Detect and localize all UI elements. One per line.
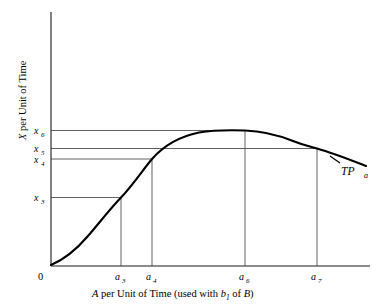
y-tick-label-x4-sub: 4 <box>41 160 45 168</box>
origin-label: 0 <box>38 271 43 282</box>
x-axis-title-text-after: ) <box>250 288 254 300</box>
y-tick-label-x3-base: x <box>33 192 39 203</box>
y-axis-title-group: X per Unit of Time <box>17 60 28 141</box>
x-tick-label-a6-base: a <box>239 271 244 282</box>
curve-label-tp-subscript: a <box>364 171 368 180</box>
y-tick-label-x3-sub: 3 <box>40 198 45 206</box>
x-tick-label-a7-sub: 7 <box>318 277 322 285</box>
y-tick-label-x6-base: x <box>33 125 39 136</box>
x-axis-title-text-before: per Unit of Time (used with <box>98 288 220 300</box>
x-tick-label-a7-base: a <box>311 271 316 282</box>
x-axis-title-text-middle: of <box>230 288 244 299</box>
x-tick-label-a6-sub: 6 <box>246 277 250 285</box>
x-tick-label-a3-sub: 3 <box>121 277 126 285</box>
y-axis-title-text: per Unit of Time <box>17 60 28 133</box>
x-tick-label-a4-sub: 4 <box>153 277 157 285</box>
chart-svg: TP a x 6 x 5 x 4 x 3 a 3 a 4 a 6 a 7 0 <box>0 0 382 304</box>
chart-background <box>0 0 382 304</box>
x-tick-label-a4-base: a <box>146 271 151 282</box>
y-tick-label-x5-base: x <box>33 143 39 154</box>
y-tick-label-x5-sub: 5 <box>41 149 45 157</box>
y-axis-title: X per Unit of Time <box>17 60 28 141</box>
curve-label-tp: TP <box>341 165 354 177</box>
y-tick-label-x6-sub: 6 <box>41 131 45 139</box>
x-tick-label-a3-base: a <box>115 271 120 282</box>
y-tick-label-x4-base: x <box>33 154 39 165</box>
total-product-chart-figure: TP a x 6 x 5 x 4 x 3 a 3 a 4 a 6 a 7 0 <box>0 0 382 304</box>
